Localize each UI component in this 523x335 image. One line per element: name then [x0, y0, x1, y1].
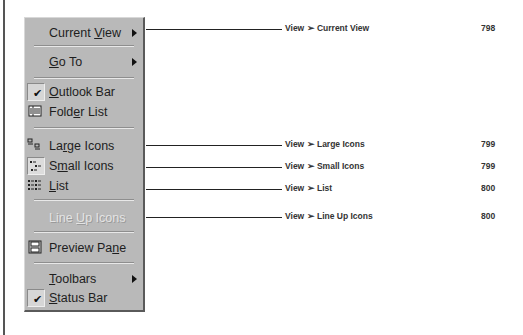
submenu-arrow-icon [132, 275, 137, 283]
menu-separator [34, 262, 134, 264]
menu-item-preview-pane[interactable]: Preview Pane [25, 238, 143, 258]
check-icon: ✔ [27, 83, 45, 101]
menu-item-label: Preview Pane [49, 238, 126, 258]
callout-page-number: 800 [481, 211, 495, 221]
menu-separator [34, 77, 134, 79]
menu-item-label: Large Icons [49, 136, 114, 156]
page-border [3, 0, 5, 335]
callout-line [146, 167, 282, 168]
menu-separator [34, 231, 134, 233]
callout-label: View ➢ Line Up Icons [285, 211, 373, 221]
check-icon: ✔ [27, 289, 45, 307]
menu-item-list[interactable]: List [25, 176, 143, 196]
menu-item-current-view[interactable]: Current View [25, 23, 143, 43]
folder-list-icon [27, 103, 45, 121]
menu-separator [34, 45, 134, 47]
menu-item-toolbars[interactable]: Toolbars [25, 269, 143, 289]
view-menu: Current View Go To ✔ Outlook Bar Folder … [24, 17, 145, 312]
menu-item-status-bar[interactable]: ✔ Status Bar [25, 288, 143, 308]
menu-item-label: Current View [49, 23, 121, 43]
menu-item-label: Status Bar [49, 288, 107, 308]
menu-item-label: List [49, 176, 68, 196]
menu-separator [34, 127, 134, 129]
small-icons-icon [27, 157, 45, 175]
menu-item-outlook-bar[interactable]: ✔ Outlook Bar [25, 82, 143, 102]
preview-pane-icon [27, 239, 45, 257]
menu-item-label: Outlook Bar [49, 82, 115, 102]
menu-item-label: Small Icons [49, 156, 114, 176]
callout-page-number: 799 [481, 139, 495, 149]
submenu-arrow-icon [132, 58, 137, 66]
menu-item-small-icons[interactable]: Small Icons [25, 156, 143, 176]
callout-line [146, 29, 282, 30]
menu-separator [34, 199, 134, 201]
menu-item-label: Line Up Icons [49, 208, 125, 228]
menu-item-label: Toolbars [49, 269, 96, 289]
large-icons-icon [27, 137, 45, 155]
callout-line [146, 189, 282, 190]
menu-item-large-icons[interactable]: Large Icons [25, 136, 143, 156]
callout-label: View ➢ List [285, 183, 332, 193]
callout-line [146, 145, 282, 146]
menu-item-folder-list[interactable]: Folder List [25, 102, 143, 122]
callout-page-number: 799 [481, 161, 495, 171]
callout-label: View ➢ Current View [285, 23, 369, 33]
callout-page-number: 800 [481, 183, 495, 193]
submenu-arrow-icon [132, 29, 137, 37]
callout-label: View ➢ Large Icons [285, 139, 365, 149]
menu-item-line-up-icons: Line Up Icons [25, 208, 143, 228]
menu-item-label: Go To [49, 52, 82, 72]
callout-line [146, 217, 282, 218]
menu-item-go-to[interactable]: Go To [25, 52, 143, 72]
callout-page-number: 798 [481, 23, 495, 33]
list-icon [27, 177, 45, 195]
menu-item-label: Folder List [49, 102, 107, 122]
callout-label: View ➢ Small Icons [285, 161, 364, 171]
